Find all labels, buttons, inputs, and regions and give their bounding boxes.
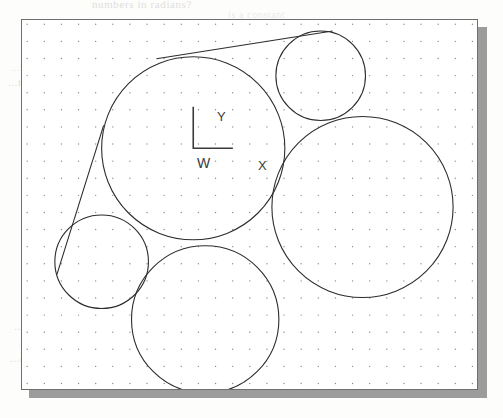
cad-viewport[interactable]: Y X W — [21, 19, 478, 390]
circle-bottom — [132, 246, 279, 389]
bleed-through-line: numbers in radians? — [92, 0, 192, 10]
scanned-page-background: numbers in radians?is a constant...a tan… — [0, 0, 503, 418]
circle-left-small — [55, 215, 149, 308]
circle-center-large — [102, 57, 285, 240]
circle-right-large — [272, 116, 453, 297]
circle-top-right — [276, 31, 366, 121]
tangent-top — [156, 31, 332, 59]
tangent-left — [57, 125, 104, 274]
circle-packing-drawing — [22, 20, 477, 389]
